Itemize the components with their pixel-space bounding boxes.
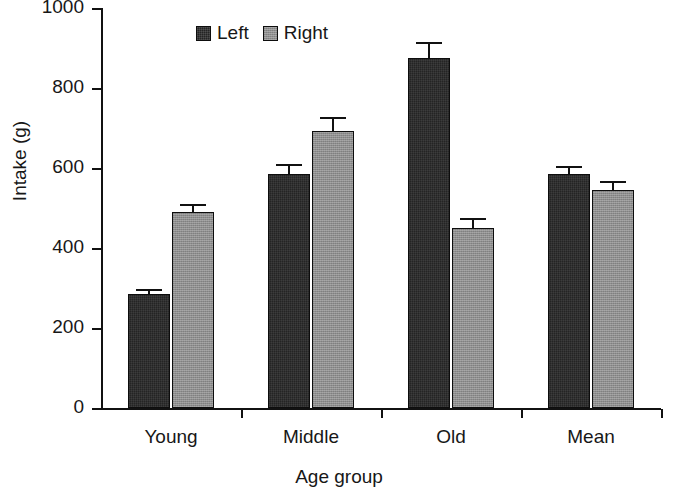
y-axis-line bbox=[101, 8, 103, 409]
error-bar-cap bbox=[460, 218, 486, 220]
x-axis-group-label: Old bbox=[436, 426, 466, 448]
y-tick-label: 600 bbox=[52, 156, 84, 178]
y-tick-mark: 400 bbox=[92, 248, 101, 250]
bar-mean-right bbox=[592, 190, 634, 408]
x-axis-title: Age group bbox=[0, 466, 678, 488]
bar-chart: Intake (g) Age group Left Right 02004006… bbox=[0, 0, 678, 499]
bar-middle-right bbox=[312, 131, 354, 408]
error-bar-cap bbox=[320, 117, 346, 119]
x-tick-mark bbox=[521, 409, 523, 418]
y-tick-mark: 200 bbox=[92, 328, 101, 330]
x-tick-mark bbox=[661, 409, 663, 418]
bar-mean-left bbox=[548, 174, 590, 408]
bar-old-right bbox=[452, 228, 494, 408]
y-axis-title: Intake (g) bbox=[9, 81, 31, 241]
y-tick-mark: 1000 bbox=[92, 8, 101, 10]
plot-area: 02004006008001000 YoungMiddleOldMean bbox=[101, 8, 661, 409]
y-tick-label: 200 bbox=[52, 316, 84, 338]
y-tick-mark: 0 bbox=[92, 408, 101, 410]
bar-middle-left bbox=[268, 174, 310, 408]
x-axis-group-label: Mean bbox=[567, 426, 615, 448]
error-bar-cap bbox=[180, 204, 206, 206]
error-bar-stem bbox=[428, 42, 430, 58]
error-bar-cap bbox=[276, 164, 302, 166]
error-bar-cap bbox=[136, 289, 162, 291]
x-tick-mark bbox=[241, 409, 243, 418]
error-bar-cap bbox=[416, 42, 442, 44]
y-tick-label: 0 bbox=[73, 396, 84, 418]
bar-young-right bbox=[172, 212, 214, 408]
bar-young-left bbox=[128, 294, 170, 408]
error-bar-cap bbox=[600, 181, 626, 183]
y-tick-mark: 800 bbox=[92, 88, 101, 90]
x-axis-group-label: Young bbox=[144, 426, 197, 448]
y-tick-label: 400 bbox=[52, 236, 84, 258]
y-tick-label: 1000 bbox=[42, 0, 84, 18]
error-bar-stem bbox=[332, 117, 334, 131]
bar-old-left bbox=[408, 58, 450, 408]
x-tick-mark bbox=[381, 409, 383, 418]
x-axis-group-label: Middle bbox=[283, 426, 339, 448]
y-tick-mark: 600 bbox=[92, 168, 101, 170]
y-tick-label: 800 bbox=[52, 76, 84, 98]
error-bar-cap bbox=[556, 166, 582, 168]
